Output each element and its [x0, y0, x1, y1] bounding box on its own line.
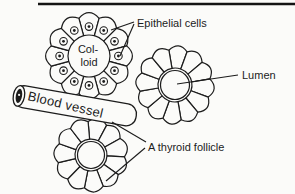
- cell-nucleolus-dot: [88, 84, 91, 87]
- diagram-canvas: Epithelial cells Col- loid Lumen Blood v…: [0, 0, 295, 194]
- label-colloid-line2: loid: [80, 56, 97, 68]
- follicle-bottom-lumen-circle: [78, 142, 105, 169]
- cell-nucleolus-dot: [102, 29, 105, 32]
- follicle-lumen-lumen-circle: [161, 71, 190, 100]
- figure-panel: Epithelial cells Col- loid Lumen Blood v…: [0, 0, 295, 194]
- cell-nucleolus-dot: [88, 25, 91, 28]
- cell-nucleolus-dot: [73, 29, 76, 32]
- label-lumen: Lumen: [242, 69, 276, 81]
- label-thyroid-follicle: A thyroid follicle: [148, 141, 224, 153]
- cell-nucleolus-dot: [62, 69, 65, 72]
- cell-nucleolus-dot: [113, 69, 116, 72]
- cell-nucleolus-dot: [62, 40, 65, 43]
- label-epithelial-cells: Epithelial cells: [137, 17, 207, 29]
- cell-nucleolus-dot: [58, 55, 61, 58]
- thyroid-follicle-bottom: [54, 118, 127, 192]
- label-colloid-line1: Col-: [78, 43, 99, 55]
- cell-nucleolus-dot: [102, 80, 105, 83]
- cell-nucleolus-dot: [113, 40, 116, 43]
- lumen-follicle: [136, 46, 214, 124]
- cell-nucleolus-dot: [73, 80, 76, 83]
- cell-nucleolus-dot: [117, 55, 120, 58]
